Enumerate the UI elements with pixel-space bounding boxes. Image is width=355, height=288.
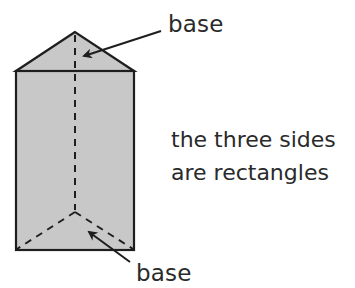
front-rectangular-faces <box>16 71 134 250</box>
description-line-1: the three sides <box>171 123 336 156</box>
description-line-2: are rectangles <box>171 156 336 189</box>
bottom-base-label: base <box>136 262 192 285</box>
sides-description: the three sides are rectangles <box>171 123 336 189</box>
top-base-arrow <box>84 31 161 56</box>
top-base-label: base <box>168 13 224 36</box>
